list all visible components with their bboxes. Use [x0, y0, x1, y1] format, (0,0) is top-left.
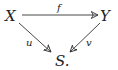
arrow-v [70, 23, 100, 52]
node-s: S. [55, 52, 70, 70]
node-x: X [4, 7, 17, 25]
arrow-u [19, 23, 51, 52]
commutative-diagram: X Y S. f u v [0, 0, 118, 70]
label-u: u [26, 37, 32, 48]
label-f: f [56, 2, 63, 13]
node-y: Y [100, 7, 112, 25]
label-v: v [86, 37, 92, 48]
